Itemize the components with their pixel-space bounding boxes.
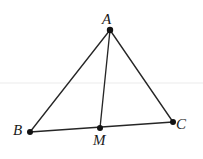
vertex-dot-b	[27, 129, 33, 135]
vertex-dot-a	[107, 27, 113, 33]
vertex-dot-m	[97, 125, 103, 131]
segment-ab	[30, 30, 110, 132]
point-label-b: B	[13, 123, 22, 138]
point-label-m: M	[93, 133, 106, 148]
segment-ac	[110, 30, 173, 122]
segment-am-median	[100, 30, 110, 128]
point-label-c: C	[176, 117, 186, 132]
geometry-figure: A B C M	[0, 0, 203, 159]
point-label-a: A	[102, 12, 111, 27]
